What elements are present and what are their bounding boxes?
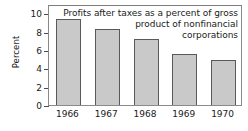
bar-chart-figure: Percent 0246810 Profits after taxes as a… [0,0,248,131]
plot-area: Profits after taxes as a percent of gros… [48,5,242,106]
y-tick-label-2: 2 [36,83,42,92]
x-tick-label-1969: 1969 [172,109,195,119]
x-axis-tick-labels: 19661967196819691970 [48,109,242,125]
y-tick-label-0: 0 [36,102,42,111]
chart-title-line-1: Profits after taxes as a percent of gros… [63,8,238,19]
chart-title: Profits after taxes as a percent of gros… [63,8,238,42]
bar-1970 [211,60,236,105]
x-tick-label-1968: 1968 [134,109,157,119]
y-tick-label-8: 8 [36,28,42,37]
bar-1969 [172,54,197,105]
y-tick-mark-0 [44,106,49,107]
y-axis-label: Percent [11,22,21,82]
x-tick-label-1966: 1966 [56,109,79,119]
x-tick-label-1967: 1967 [95,109,118,119]
x-tick-label-1970: 1970 [211,109,234,119]
bar-1968 [134,39,159,105]
y-tick-label-6: 6 [36,46,42,55]
y-tick-label-10: 10 [31,10,42,19]
chart-title-line-3: corporations [63,30,238,41]
y-axis-tick-labels: 0246810 [22,0,42,131]
chart-title-line-2: product of nonfinancial [63,19,238,30]
y-tick-label-4: 4 [36,65,42,74]
